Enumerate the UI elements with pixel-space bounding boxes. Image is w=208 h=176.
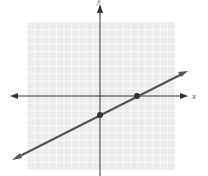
x-axis-left-arrow-icon — [10, 93, 18, 99]
point-x-intercept — [134, 93, 140, 99]
point-y-intercept — [97, 112, 103, 118]
x-axis-label: x — [191, 91, 196, 101]
line-lower-arrow-icon — [12, 153, 22, 160]
y-axis-up-arrow-icon — [97, 4, 103, 13]
x-axis-right-arrow-icon — [180, 93, 188, 99]
y-axis-label: y — [96, 0, 101, 5]
coordinate-plane: x y — [0, 0, 208, 176]
